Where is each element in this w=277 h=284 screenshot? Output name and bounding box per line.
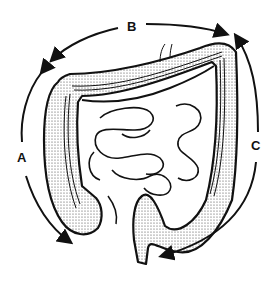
arrow-c-upper (236, 36, 258, 132)
colon-illustration (0, 0, 277, 284)
arrow-b-left (52, 28, 118, 60)
label-b: B (127, 20, 136, 33)
label-c: C (251, 139, 260, 152)
arrow-a (22, 72, 42, 142)
large-intestine (44, 43, 237, 264)
colon-diagram: A B C (0, 0, 277, 284)
label-a: A (17, 151, 26, 164)
arrow-b-right (146, 24, 226, 34)
small-intestine (89, 104, 200, 195)
